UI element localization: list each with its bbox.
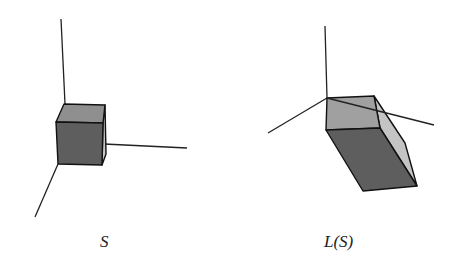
axis-z: [61, 19, 65, 104]
diagram-canvas: S L(S): [0, 0, 465, 274]
axis-z: [325, 26, 327, 98]
axis-y: [104, 144, 187, 148]
figure-s: [35, 19, 187, 217]
prism-top-face: [326, 96, 380, 130]
label-ls: L(S): [323, 232, 354, 251]
axis-x: [35, 164, 58, 217]
cube-front-face: [56, 122, 103, 165]
axis-x: [268, 98, 327, 133]
label-s: S: [100, 232, 109, 251]
figure-ls: [268, 26, 434, 191]
cube-top-face: [56, 104, 105, 123]
